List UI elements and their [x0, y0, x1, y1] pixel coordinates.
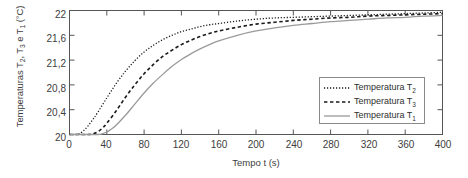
legend: Temperatura T2 Temperatura T3 Temperatur… — [319, 77, 425, 124]
legend-swatch-dotted-icon — [324, 83, 350, 93]
legend-swatch-solid-icon — [324, 111, 350, 121]
legend-label-t2: Temperatura T2 — [354, 82, 416, 94]
legend-item-t3: Temperatura T3 — [324, 95, 421, 109]
chart-figure: Temperaturas T2, T3 e T1 (°C) 22 21,6 21… — [0, 0, 468, 178]
legend-item-t1: Temperatura T1 — [324, 109, 421, 123]
legend-label-t1: Temperatura T1 — [354, 110, 416, 122]
legend-label-t3: Temperatura T3 — [354, 96, 416, 108]
legend-swatch-dashed-icon — [324, 97, 350, 107]
legend-item-t2: Temperatura T2 — [324, 81, 421, 95]
